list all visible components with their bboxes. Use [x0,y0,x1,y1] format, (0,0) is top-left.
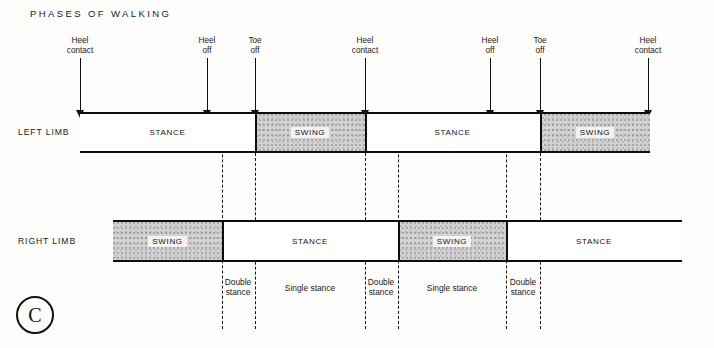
arrow-shaft-icon [490,58,491,110]
arrow-shaft-icon [365,58,366,110]
segment-label: STANCE [430,127,474,138]
event-label-heel-contact-1: Heel contact [44,36,116,56]
phase-annotation-single-stance-2: Single stance [412,283,492,293]
segment-label: SWING [148,236,187,247]
arrow-shaft-icon [80,58,81,110]
segment-left-swing-1: SWING [255,114,365,151]
arrow-shaft-icon [648,58,649,110]
segment-divider [222,222,224,260]
segment-divider [540,114,542,151]
gait-cycle-diagram: PHASES OF WALKING Heel contactHeel offTo… [0,0,714,348]
arrow-shaft-icon [255,58,256,110]
segment-divider [365,114,367,151]
phase-annotation-double-stance-2: Double stance [341,277,421,297]
segment-divider [255,114,257,151]
segment-label: SWING [576,127,615,138]
segment-right-swing-2: SWING [398,222,506,260]
segment-label: STANCE [145,127,189,138]
segment-divider [398,222,400,260]
segment-right-stance-2: STANCE [506,222,682,260]
segment-left-swing-2: SWING [540,114,650,151]
segment-right-swing-1: SWING [113,222,222,260]
segment-left-stance-2: STANCE [365,114,540,151]
segment-label: STANCE [572,236,616,247]
phase-annotation-double-stance-1: Double stance [198,277,278,297]
segment-left-stance-1: STANCE [80,114,255,151]
page-title: PHASES OF WALKING [30,8,171,19]
copyright-letter: C [28,305,41,325]
limb-label-right-limb: RIGHT LIMB [18,236,76,246]
segment-label: SWING [433,236,472,247]
event-label-heel-contact-2: Heel contact [329,36,401,56]
bar-right-limb: SWINGSTANCESWINGSTANCE [113,220,682,262]
limb-label-left-limb: LEFT LIMB [18,127,69,137]
segment-right-stance-1: STANCE [222,222,398,260]
phase-annotation-single-stance-1: Single stance [270,283,350,293]
arrow-shaft-icon [540,58,541,110]
segment-label: SWING [291,127,330,138]
event-label-toe-off-2: Toe off [504,36,576,56]
event-label-heel-contact-3: Heel contact [612,36,684,56]
segment-label: STANCE [288,236,332,247]
bar-left-limb: STANCESWINGSTANCESWING [80,112,650,153]
arrow-shaft-icon [207,58,208,110]
copyright-icon: C [16,296,54,334]
event-label-toe-off-1: Toe off [219,36,291,56]
segment-divider [506,222,508,260]
phase-annotation-double-stance-3: Double stance [483,277,563,297]
